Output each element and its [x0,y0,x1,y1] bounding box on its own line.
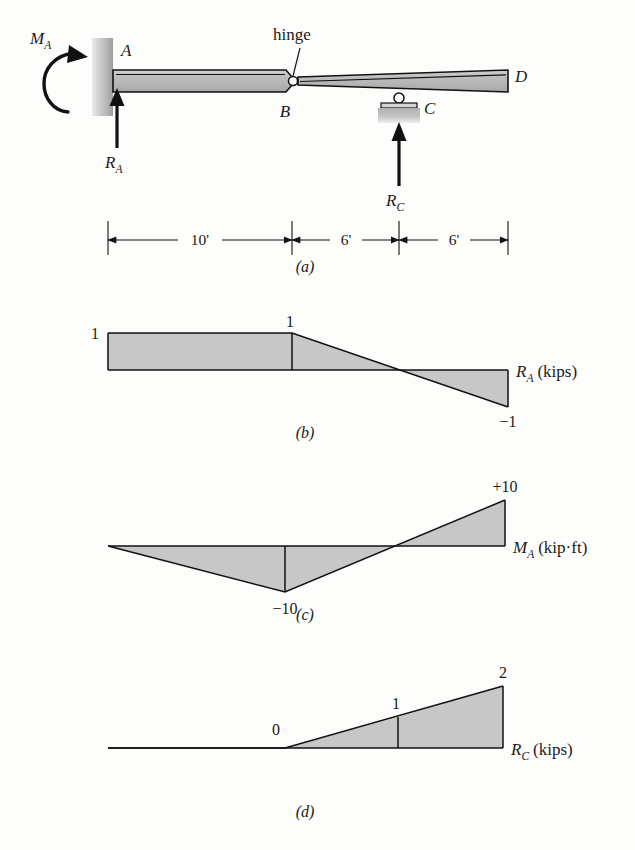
reaction-ra-sub: A [114,163,123,175]
ma-negative-area [108,546,395,592]
label-point-d: D [514,67,528,86]
dimension-label-span-1: 10' [191,231,210,248]
ra-axis-unit: (kips) [537,362,577,381]
panel-caption-d: (d) [296,803,315,821]
hinge-label: hinge [273,25,311,44]
moment-label-ma: MA [29,29,52,51]
reaction-rc-base: R [385,191,397,210]
beam-segment-ab [113,70,292,92]
rc-axis-sub: C [521,750,529,762]
label-point-b: B [280,102,291,121]
rc-value-label-b: 0 [272,721,280,738]
reaction-ra-base: R [104,153,116,172]
moment-label-sub: A [43,39,52,51]
influence-line-rc-panel: 0 1 2 RC(kips) (d) [108,664,573,821]
figure-container: A B C D hinge MA RA RC [0,0,635,850]
dimension-label-span-2: 6' [341,231,352,248]
rc-value-label-d: 2 [499,664,507,681]
ma-axis-unit: (kip·ft) [538,538,587,557]
rc-axis-label: RC(kips) [510,740,573,762]
fixed-wall-support [92,38,113,116]
label-point-c: C [424,99,436,118]
ma-axis-sub: A [526,548,535,560]
panel-caption-a: (a) [296,258,315,276]
ra-value-label-a: 1 [91,325,99,342]
moment-arrow-ma [44,45,88,112]
ma-value-label-d: +10 [492,478,517,495]
roller-support-c [378,93,420,123]
ra-value-label-d: −1 [499,413,516,430]
ma-value-label-b: −10 [272,600,297,617]
beam-diagram-panel: A B C D hinge MA RA RC [29,25,528,276]
influence-line-ra-panel: 1 1 −1 RA(kips) (b) [91,313,577,442]
reaction-rc-sub: C [396,201,404,213]
ra-axis-base: R [515,362,527,381]
label-point-a: A [120,41,132,60]
moment-label-base: M [29,29,45,48]
panel-caption-b: (b) [296,424,315,442]
rc-value-label-c: 1 [392,695,400,712]
panel-caption-c: (c) [296,606,314,624]
hinge-icon [289,77,298,86]
influence-line-ma-panel: +10 −10 MA(kip·ft) (c) [108,478,587,624]
ra-value-label-b: 1 [286,313,294,330]
ra-positive-area [108,333,399,370]
dimension-label-span-3: 6' [449,231,460,248]
reaction-label-ra: RA [104,153,123,175]
rc-axis-base: R [510,740,522,759]
ma-axis-base: M [512,538,528,557]
rc-axis-unit: (kips) [533,740,573,759]
ra-axis-sub: A [525,372,534,384]
ra-axis-label: RA(kips) [515,362,577,384]
dimension-line-group: 10' 6' 6' [108,221,508,255]
beam-influence-line-figure: A B C D hinge MA RA RC [0,0,635,850]
reaction-label-rc: RC [385,191,404,213]
reaction-arrow-rc [392,122,407,186]
hinge-leader-line [293,48,300,76]
ma-axis-label: MA(kip·ft) [512,538,587,560]
